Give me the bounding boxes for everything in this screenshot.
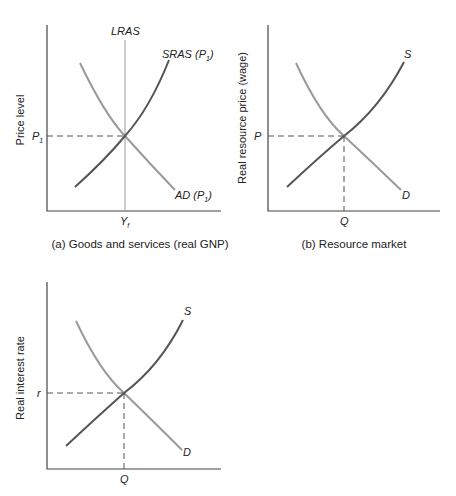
p-label: P — [254, 130, 262, 142]
panel-resource-market: S D P Q Real resource price (wage) (b) R… — [236, 25, 440, 250]
d-label-b: D — [402, 189, 410, 201]
ad-label: AD (P1) — [174, 189, 212, 203]
axes-b — [268, 25, 440, 211]
lras-label: LRAS — [111, 25, 140, 37]
yf-label: Yf — [120, 215, 130, 229]
diagram-canvas: LRAS SRAS (P1) AD (P1) P1 Yf Price level… — [0, 0, 456, 496]
caption-b: (b) Resource market — [302, 238, 408, 250]
sras-label: SRAS (P1) — [162, 48, 214, 62]
demand-curve-c — [76, 321, 182, 450]
d-label-c: D — [183, 446, 191, 458]
q-label-c: Q — [120, 473, 129, 485]
r-label: r — [37, 387, 42, 399]
panel-interest-rate: S D r Q Real interest rate — [14, 282, 221, 485]
ylabel-b: Real resource price (wage) — [236, 52, 248, 184]
p1-label: P1 — [32, 130, 43, 144]
demand-curve-b — [296, 63, 401, 190]
s-label-b: S — [404, 48, 412, 60]
caption-a: (a) Goods and services (real GNP) — [51, 238, 228, 250]
ad-curve — [80, 63, 175, 190]
s-label-c: S — [184, 305, 192, 317]
ylabel-c: Real interest rate — [14, 336, 26, 420]
panel-goods-services: LRAS SRAS (P1) AD (P1) P1 Yf Price level… — [14, 25, 229, 250]
q-label-b: Q — [340, 215, 349, 227]
axes-c — [47, 282, 221, 469]
ylabel-a: Price level — [14, 95, 26, 146]
